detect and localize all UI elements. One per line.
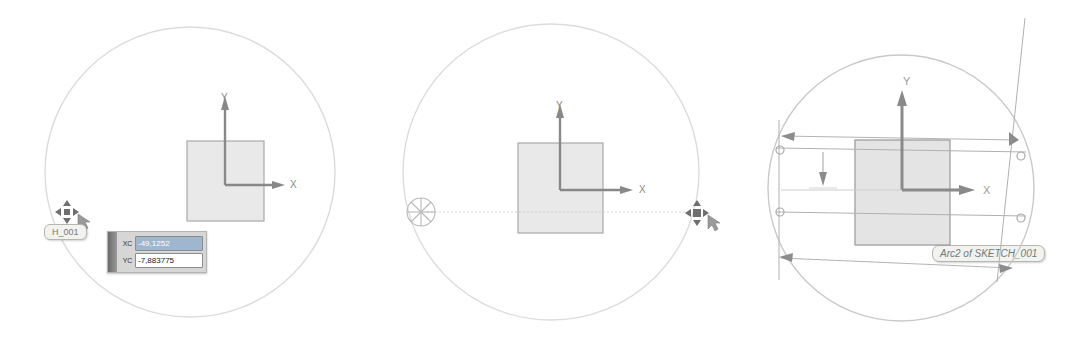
x-axis-label: X bbox=[983, 184, 991, 196]
widget-drag-grip[interactable] bbox=[108, 232, 117, 272]
panel1-y-axis-label: Y bbox=[221, 92, 228, 103]
yc-input[interactable]: -7,883775 bbox=[135, 253, 203, 268]
yc-label: YC bbox=[120, 257, 132, 264]
dimension-line-offset[interactable] bbox=[809, 152, 837, 188]
arc-center-icon[interactable] bbox=[407, 198, 435, 226]
panel2-y-axis-label: Y bbox=[556, 100, 563, 111]
panel-1-canvas[interactable] bbox=[0, 0, 361, 345]
move-4way-icon[interactable] bbox=[685, 200, 720, 231]
xc-field-row[interactable]: XC -49,1252 bbox=[120, 236, 203, 251]
panel-2-snap-to-arc[interactable]: Arc2 of SKETCH_001 bbox=[361, 0, 722, 345]
panel-3-dimensions[interactable]: Y X 9?,6 97,7 0,2 bbox=[721, 0, 1082, 345]
coordinate-entry-widget[interactable]: XC -49,1252 YC -7,883775 bbox=[107, 231, 207, 273]
yc-field-row[interactable]: YC -7,883775 bbox=[120, 253, 203, 268]
y-axis-label: Y bbox=[903, 75, 911, 87]
dimension-line-horizontal[interactable] bbox=[779, 253, 1013, 273]
panel-3-canvas[interactable]: Y X bbox=[721, 0, 1082, 345]
panel1-x-axis-label: X bbox=[290, 179, 297, 190]
tooltip-sketch-label: H_001 bbox=[44, 224, 87, 240]
panel-2-canvas[interactable] bbox=[361, 0, 722, 345]
panel2-x-axis-label: X bbox=[639, 184, 646, 195]
xc-input[interactable]: -49,1252 bbox=[135, 236, 203, 251]
panel-1-drag-start[interactable]: H_001 XC -49,1252 YC -7,883775 bbox=[0, 0, 361, 345]
xc-label: XC bbox=[120, 240, 132, 247]
